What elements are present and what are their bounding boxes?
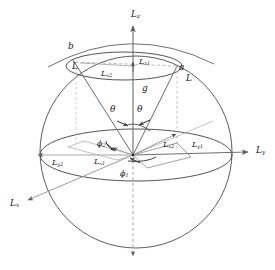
sphere-outline	[40, 56, 232, 248]
axis-label-lx: Lx	[10, 199, 19, 209]
angle-label-theta-left: θ	[110, 105, 115, 114]
figure-canvas: —— · · · ·	[0, 0, 275, 270]
component-label-lx2-cap: Lx2	[101, 70, 112, 78]
point-label-b: b	[68, 42, 74, 51]
phi2-arrow	[106, 143, 115, 151]
component-label-lx2-eq: Lx2	[163, 141, 174, 149]
vector-label-l-left: L	[72, 62, 78, 71]
origin-point	[132, 154, 134, 156]
vector-label-l-right: L	[186, 74, 192, 83]
component-label-ly2: Ly2	[52, 159, 63, 167]
cap-component-left	[80, 63, 133, 66]
theta-left-arrow	[117, 121, 128, 126]
component-label-ly1: Ly1	[192, 141, 203, 149]
projection-parallelogram-right	[133, 143, 191, 168]
lx1-projection-arrow	[113, 148, 133, 155]
angle-label-phi1: ϕ1	[120, 170, 129, 178]
component-label-g: g	[142, 84, 148, 93]
angle-label-phi2: ϕ2	[97, 140, 106, 148]
angle-label-theta-right: θ	[137, 105, 142, 114]
axis-label-lz: Lz	[131, 10, 140, 20]
sphere-diagram-svg	[0, 0, 275, 270]
ly-axis	[133, 152, 248, 155]
lx-axis-negative	[133, 121, 213, 155]
point-label-a: a	[179, 63, 184, 72]
component-label-lz1: Lz1	[139, 58, 150, 66]
component-label-lx1: Lx1	[94, 158, 105, 166]
axis-label-ly: Ly	[256, 146, 265, 156]
